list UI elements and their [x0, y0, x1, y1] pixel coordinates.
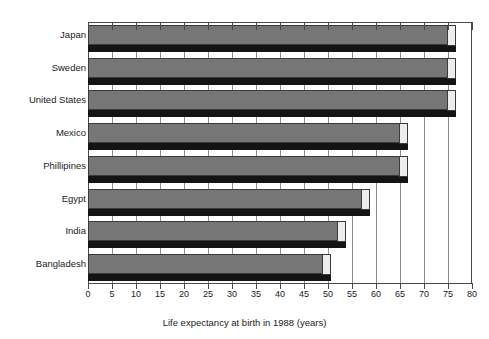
category-label: Bangladesh — [2, 258, 86, 269]
bar-front-face — [88, 254, 323, 274]
bar-shadow-face — [88, 241, 346, 248]
x-axis-top-tick — [304, 22, 305, 30]
x-axis-tick-label: 70 — [413, 289, 435, 300]
x-axis-tick-label: 75 — [437, 289, 459, 300]
x-axis-tick-label: 50 — [317, 289, 339, 300]
x-axis-top-tick — [280, 22, 281, 30]
bar-front-face — [88, 25, 448, 45]
x-axis-top-tick — [184, 22, 185, 30]
bar-shadow-face — [88, 78, 456, 85]
bar-end-cap — [337, 221, 346, 242]
x-axis-top-tick — [208, 22, 209, 30]
category-label: Japan — [2, 29, 86, 40]
category-label: United States — [2, 94, 86, 105]
bar-front-face — [88, 156, 400, 176]
x-axis-top-tick — [352, 22, 353, 30]
x-axis-top-tick — [448, 22, 449, 30]
bar-end-cap — [447, 90, 456, 111]
x-axis-tick-label: 30 — [221, 289, 243, 300]
bars-layer — [88, 22, 473, 284]
x-axis-top-tick — [160, 22, 161, 30]
x-axis-tick-label: 10 — [125, 289, 147, 300]
bar-shadow-face — [88, 110, 456, 117]
bar-end-cap — [322, 254, 331, 275]
category-label: India — [2, 225, 86, 236]
x-axis-top-tick — [232, 22, 233, 30]
bar-front-face — [88, 90, 448, 110]
x-axis-top-tick — [256, 22, 257, 30]
bar — [88, 90, 455, 117]
x-axis-top-tick — [328, 22, 329, 30]
x-axis-top-tick — [472, 22, 473, 30]
x-axis-tick-label: 25 — [197, 289, 219, 300]
category-label: Egypt — [2, 193, 86, 204]
bar-front-face — [88, 221, 338, 241]
bar-end-cap — [399, 156, 408, 177]
bar-end-cap — [399, 123, 408, 144]
bar — [88, 254, 330, 281]
bar-front-face — [88, 123, 400, 143]
bar-shadow-face — [88, 143, 408, 150]
category-label: Sweden — [2, 62, 86, 73]
x-axis-tick-label: 15 — [149, 289, 171, 300]
x-axis-top-tick — [112, 22, 113, 30]
category-label: Mexico — [2, 127, 86, 138]
x-axis-top-tick — [424, 22, 425, 30]
bar-shadow-face — [88, 45, 456, 52]
x-axis-tick-label: 65 — [389, 289, 411, 300]
x-axis-tick-label: 35 — [245, 289, 267, 300]
x-axis-tick-label: 20 — [173, 289, 195, 300]
bar-front-face — [88, 189, 362, 209]
x-axis-top-tick — [136, 22, 137, 30]
bar — [88, 58, 455, 85]
x-axis-top-tick — [400, 22, 401, 30]
bar — [88, 156, 407, 183]
bar-shadow-face — [88, 209, 370, 216]
x-axis-tick-label: 60 — [365, 289, 387, 300]
bar-chart: JapanSwedenUnited StatesMexicoPhillipine… — [0, 0, 489, 339]
category-label: Phillipines — [2, 160, 86, 171]
bar — [88, 221, 345, 248]
category-axis-labels: JapanSwedenUnited StatesMexicoPhillipine… — [0, 22, 86, 284]
x-axis-top-tick — [88, 22, 89, 30]
x-axis-tick-label: 0 — [77, 289, 99, 300]
x-axis-top-tick — [376, 22, 377, 30]
cropped-caption-strip — [0, 0, 489, 10]
bar-shadow-face — [88, 176, 408, 183]
x-axis-tick-label: 45 — [293, 289, 315, 300]
x-axis-tick-label: 40 — [269, 289, 291, 300]
x-axis-title: Life expectancy at birth in 1988 (years) — [0, 317, 489, 328]
bar — [88, 189, 369, 216]
bar-end-cap — [361, 189, 370, 210]
bar-end-cap — [447, 58, 456, 79]
x-axis-tick-label: 55 — [341, 289, 363, 300]
x-axis-tick-label: 5 — [101, 289, 123, 300]
bar-shadow-face — [88, 274, 331, 281]
x-axis-tick-label: 80 — [461, 289, 483, 300]
bar-front-face — [88, 58, 448, 78]
bar — [88, 123, 407, 150]
